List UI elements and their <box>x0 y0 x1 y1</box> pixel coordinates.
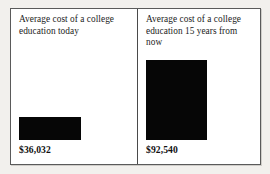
panel-content-future: Average cost of a college education 15 y… <box>146 9 252 164</box>
panel-content-today: Average cost of a college education toda… <box>19 9 129 164</box>
bar-area-future <box>146 9 252 140</box>
value-label-future: $92,540 <box>146 144 178 155</box>
chart-panel-future: Average cost of a college education 15 y… <box>138 9 260 164</box>
chart-panel-today: Average cost of a college education toda… <box>11 9 138 164</box>
bar-future <box>146 60 207 140</box>
bar-today <box>19 117 81 140</box>
value-label-today: $36,032 <box>19 144 51 155</box>
comparison-chart-figure: Average cost of a college education toda… <box>10 8 261 165</box>
bar-area-today <box>19 9 129 140</box>
